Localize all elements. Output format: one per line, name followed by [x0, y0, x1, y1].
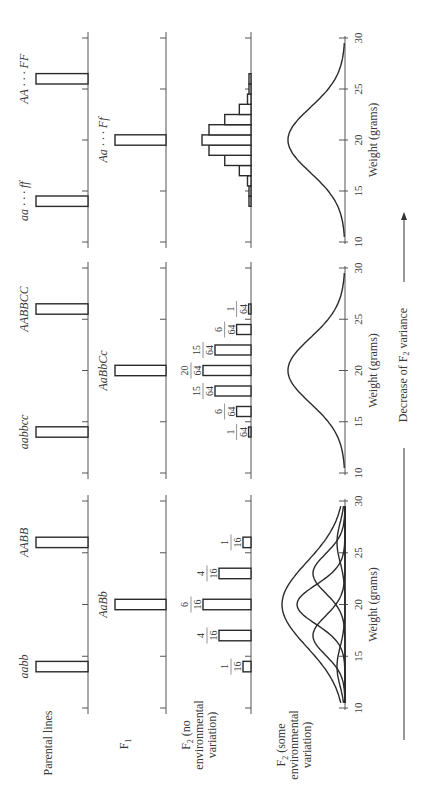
- genotype-label: aa · · · ff: [17, 180, 31, 221]
- tick-label: 10: [352, 236, 364, 248]
- parental-bar: [36, 74, 88, 84]
- row-label-f1: F1: [117, 739, 133, 750]
- f2-bar: [225, 115, 251, 125]
- parental-bar: [36, 304, 88, 314]
- svg-text:1: 1: [225, 307, 236, 312]
- arrowhead-icon: [401, 212, 407, 220]
- panel-3: 1015202530Weight (grams)aa · · · ffAA · …: [17, 32, 380, 248]
- fraction-label: 664: [213, 404, 237, 420]
- genotype-label: aabb: [17, 655, 31, 679]
- genotype-label: AaBb: [96, 591, 110, 619]
- variance-note: Decrease of F2 variance: [396, 308, 411, 422]
- tick-label: 10: [352, 467, 364, 479]
- svg-text:64: 64: [204, 386, 215, 396]
- normal-curve: [288, 43, 344, 237]
- f2-bar: [209, 145, 251, 155]
- f2-bar: [249, 186, 251, 196]
- f2-bar: [248, 94, 252, 104]
- f2-bar: [243, 537, 251, 548]
- f2-bar: [249, 74, 251, 84]
- svg-text:64: 64: [226, 325, 237, 335]
- svg-text:16: 16: [208, 568, 219, 578]
- svg-text:64: 64: [204, 345, 215, 355]
- f2-bar: [219, 630, 251, 641]
- svg-text:20: 20: [179, 366, 190, 376]
- svg-text:16: 16: [232, 537, 243, 547]
- fraction-label: 616: [179, 597, 203, 613]
- tick-label: 30: [352, 262, 364, 274]
- svg-text:16: 16: [232, 662, 243, 672]
- genotype-label: AaBbCc: [96, 350, 110, 392]
- f2-bar: [239, 166, 251, 176]
- f2-bar: [209, 125, 251, 135]
- f2-bar: [215, 386, 251, 396]
- f2-bar: [249, 304, 251, 314]
- svg-text:6: 6: [213, 327, 224, 332]
- fraction-label: 1564: [191, 383, 215, 399]
- f2-bar: [202, 135, 251, 145]
- tick-label: 15: [352, 416, 364, 428]
- svg-text:F1: F1: [117, 739, 133, 750]
- svg-text:1: 1: [225, 430, 236, 435]
- tick-label: 15: [352, 650, 364, 662]
- tick-label: 30: [352, 495, 364, 507]
- svg-text:6: 6: [213, 409, 224, 414]
- svg-text:6: 6: [179, 602, 190, 607]
- tick-label: 15: [352, 185, 364, 197]
- fraction-label: 164: [225, 301, 249, 317]
- tick-label: 20: [352, 365, 364, 377]
- f2-bar: [237, 325, 251, 335]
- tick-label: 20: [352, 134, 364, 146]
- f2-bar: [219, 568, 251, 579]
- genotype-label: AA · · · FF: [17, 53, 31, 105]
- tick-label: 10: [352, 702, 364, 714]
- parental-bar: [36, 537, 88, 547]
- genotype-label: Aa · · · Ff: [96, 116, 110, 164]
- svg-text:16: 16: [208, 631, 219, 641]
- f2-bar: [249, 427, 251, 437]
- genotype-label: aabbcc: [17, 414, 31, 449]
- f1-bar: [115, 135, 166, 145]
- svg-text:environmental: environmental: [192, 700, 206, 770]
- fraction-label: 164: [225, 424, 249, 440]
- f1-bar: [115, 599, 166, 609]
- svg-text:16: 16: [192, 600, 203, 610]
- panel-2: 1015202530Weight (grams)aabbccAABBCCAaBb…: [17, 262, 380, 479]
- tick-label: 25: [352, 83, 364, 95]
- svg-text:15: 15: [191, 345, 202, 355]
- parental-bar: [36, 196, 88, 206]
- tick-label: 20: [352, 599, 364, 611]
- panel-1: 1015202530Weight (grams)aabbAABBAaBb1164…: [17, 495, 380, 714]
- svg-text:variation): variation): [300, 722, 314, 769]
- axis-label: Weight (grams): [366, 567, 380, 642]
- f1-bar: [115, 365, 166, 375]
- genotype-label: AABB: [17, 527, 31, 558]
- parental-bar: [36, 661, 88, 671]
- fraction-label: 1564: [191, 342, 215, 358]
- axis-label: Weight (grams): [366, 333, 380, 408]
- fraction-label: 664: [213, 322, 237, 338]
- f2-bar: [203, 366, 251, 376]
- axis-label: Weight (grams): [366, 103, 380, 178]
- svg-text:64: 64: [238, 304, 249, 314]
- polygenic-inheritance-figure: 1015202530Weight (grams)aabbAABBAaBb1164…: [0, 0, 426, 787]
- fraction-label: 416: [195, 628, 219, 644]
- tick-label: 25: [352, 313, 364, 325]
- f2-bar: [237, 407, 251, 417]
- row-label-parental: Parental lines: [41, 710, 55, 775]
- svg-text:64: 64: [238, 427, 249, 437]
- f2-bar: [225, 155, 251, 165]
- f2-bar: [249, 196, 251, 206]
- svg-text:Parental lines: Parental lines: [41, 710, 55, 775]
- tick-label: 25: [352, 547, 364, 559]
- f2-bar: [243, 661, 251, 672]
- f2-bar: [249, 84, 251, 94]
- fraction-label: 116: [219, 534, 243, 550]
- parental-bar: [36, 427, 88, 437]
- svg-text:4: 4: [195, 633, 206, 638]
- svg-text:15: 15: [191, 386, 202, 396]
- svg-text:environmental: environmental: [287, 710, 301, 780]
- fraction-label: 2064: [179, 363, 203, 379]
- tick-label: 30: [352, 32, 364, 44]
- envelope-curve: [282, 506, 341, 703]
